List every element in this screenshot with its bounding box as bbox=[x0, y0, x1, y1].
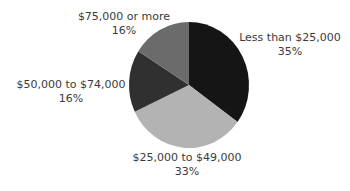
label-pct: 35% bbox=[232, 45, 348, 59]
label-50000-to-74000: $50,000 to $74,000 16% bbox=[16, 78, 126, 106]
label-pct: 16% bbox=[74, 24, 174, 38]
pie-slices bbox=[129, 22, 249, 148]
label-name: $50,000 to $74,000 bbox=[16, 78, 126, 92]
label-25000-to-49000: $25,000 to $49,000 33% bbox=[132, 151, 242, 179]
label-pct: 33% bbox=[132, 165, 242, 179]
label-name: Less than $25,000 bbox=[232, 31, 348, 45]
label-name: $25,000 to $49,000 bbox=[132, 151, 242, 165]
label-name: $75,000 or more bbox=[74, 10, 174, 24]
label-pct: 16% bbox=[16, 92, 126, 106]
label-75000-or-more: $75,000 or more 16% bbox=[74, 10, 174, 38]
label-less-than-25000: Less than $25,000 35% bbox=[232, 31, 348, 59]
